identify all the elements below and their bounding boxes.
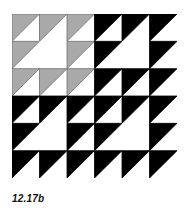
quilt-cell	[67, 123, 95, 150]
quilt-cell	[122, 151, 150, 178]
quilt-cell	[122, 123, 150, 150]
quilt-cell	[67, 14, 95, 41]
quilt-cell	[12, 69, 40, 96]
quilt-cell	[95, 151, 123, 178]
quilt-grid-svg	[12, 14, 177, 178]
quilt-cell	[95, 96, 123, 123]
quilt-cell	[40, 123, 68, 150]
quilt-cell	[95, 41, 123, 68]
quilt-cell	[67, 151, 95, 178]
quilt-cell	[150, 69, 178, 96]
quilt-cell	[95, 14, 123, 41]
quilt-cell	[122, 41, 150, 68]
quilt-cell	[40, 151, 68, 178]
quilt-cell	[12, 151, 40, 178]
quilt-cell	[40, 41, 68, 68]
quilt-cell	[40, 96, 68, 123]
quilt-cell	[122, 96, 150, 123]
quilt-cell	[150, 123, 178, 150]
quilt-cell	[12, 14, 40, 41]
quilt-cell	[150, 41, 178, 68]
quilt-cell	[67, 41, 95, 68]
quilt-cell	[67, 69, 95, 96]
quilt-cell	[12, 41, 40, 68]
quilt-cell	[122, 69, 150, 96]
quilt-cell	[150, 14, 178, 41]
quilt-cell	[40, 14, 68, 41]
quilt-cell	[95, 69, 123, 96]
quilt-cell	[150, 96, 178, 123]
quilt-cell	[95, 123, 123, 150]
quilt-cell	[67, 96, 95, 123]
quilt-cell	[40, 69, 68, 96]
quilt-cell	[150, 151, 178, 178]
quilt-cell	[12, 123, 40, 150]
quilt-cell	[12, 96, 40, 123]
quilt-cell	[122, 14, 150, 41]
figure-caption: 12.17b	[12, 194, 44, 204]
quilt-pattern	[12, 14, 177, 178]
